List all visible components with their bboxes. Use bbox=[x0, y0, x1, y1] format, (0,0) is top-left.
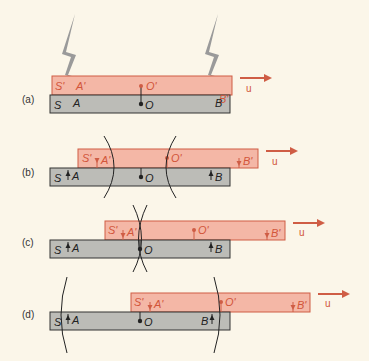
point-label: O bbox=[144, 316, 153, 328]
point-label: B bbox=[215, 243, 222, 255]
point-label: O' bbox=[146, 80, 158, 92]
point-label: A bbox=[71, 314, 79, 326]
point-label: A' bbox=[153, 298, 164, 310]
point-label: A bbox=[71, 242, 79, 254]
frame-label-s-prime: S' bbox=[82, 152, 92, 164]
panel-b: S' A' O' B' S A O B (b) u bbox=[22, 136, 296, 198]
velocity-label: u bbox=[272, 156, 278, 167]
panel-label: (c) bbox=[22, 237, 34, 248]
point-label: B bbox=[201, 315, 208, 327]
point-label: A' bbox=[100, 154, 111, 166]
frame-label-s: S bbox=[54, 99, 62, 111]
frame-label-s: S bbox=[54, 316, 62, 328]
panel-c: S' A' O' B' S A O B (c) u bbox=[22, 205, 323, 272]
point-label: O' bbox=[198, 224, 210, 236]
frame-label-s: S bbox=[54, 244, 62, 256]
point-label: B bbox=[215, 97, 222, 109]
point-label: O' bbox=[171, 152, 183, 164]
panel-label: (d) bbox=[22, 309, 34, 320]
origin-prime-dot bbox=[139, 84, 143, 88]
origin-dot bbox=[139, 102, 143, 106]
point-label: O' bbox=[225, 296, 237, 308]
point-label: A bbox=[71, 170, 79, 182]
point-label: O bbox=[144, 244, 153, 256]
panel-a: S' A' O' B' S A O B (a) u bbox=[22, 14, 270, 113]
point-label: O bbox=[145, 172, 154, 184]
panel-label: (b) bbox=[22, 167, 34, 178]
frame-label-s-prime: S' bbox=[108, 224, 118, 236]
point-label: B' bbox=[243, 155, 253, 167]
frame-label-s-prime: S' bbox=[55, 80, 65, 92]
simultaneity-diagram: S' A' O' B' S A O B (a) u S' bbox=[0, 0, 369, 361]
velocity-label: u bbox=[325, 298, 331, 309]
frame-label-s: S bbox=[54, 172, 62, 184]
point-label: B bbox=[215, 171, 222, 183]
point-label: B' bbox=[271, 227, 281, 239]
point-label: A bbox=[72, 97, 80, 109]
velocity-label: u bbox=[299, 227, 305, 238]
point-label: B' bbox=[297, 299, 307, 311]
point-label: A' bbox=[75, 80, 86, 92]
panel-label: (a) bbox=[22, 94, 34, 105]
panel-d: S' A' O' B' S A O B (d) u bbox=[22, 277, 348, 353]
frame-label-s-prime: S' bbox=[134, 296, 144, 308]
velocity-label: u bbox=[246, 83, 252, 94]
point-label: A' bbox=[126, 226, 137, 238]
point-label: O bbox=[145, 99, 154, 111]
